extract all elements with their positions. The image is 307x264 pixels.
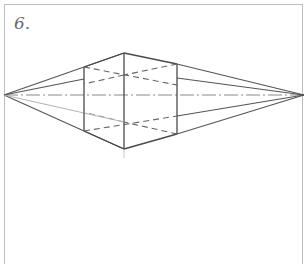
left-vp-lines <box>4 53 124 149</box>
box-hidden-edges <box>84 64 177 134</box>
right-vp-lines <box>177 64 304 134</box>
